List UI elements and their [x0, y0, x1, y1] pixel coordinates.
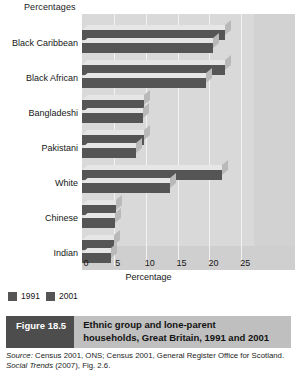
bar-front-face — [82, 148, 136, 158]
chart-plot-area — [82, 14, 295, 266]
bar-1991-white — [82, 183, 170, 193]
category-label: White — [0, 178, 78, 188]
legend-item: 2001 — [46, 291, 78, 301]
bar-front-face — [82, 113, 143, 123]
legend-swatch — [8, 292, 17, 301]
x-tick-label: 15 — [172, 258, 192, 268]
source-text-1: Census 2001, ONS; Census 2001, General R… — [33, 351, 284, 360]
chart-legend: 19912001 — [8, 291, 78, 301]
bar-front-face — [82, 183, 170, 193]
category-label: Indian — [0, 248, 78, 258]
caption-title-line2: households, Great Britain, 1991 and 2001 — [83, 332, 269, 343]
source-text-2: (2007), Fig. 2.6. — [53, 361, 110, 370]
bar-1991-pakistani — [82, 148, 136, 158]
source-prefix: Source: — [6, 351, 33, 360]
legend-item: 1991 — [8, 291, 40, 301]
units-label: Percentages — [24, 2, 76, 12]
category-label: Black Caribbean — [0, 38, 78, 48]
x-tick-label: 0 — [76, 258, 96, 268]
category-label: Pakistani — [0, 143, 78, 153]
bar-front-face — [82, 78, 206, 88]
bar-front-face — [82, 218, 115, 228]
x-tick-label: 25 — [235, 258, 255, 268]
plot-right-wall — [254, 14, 295, 266]
gridline — [241, 14, 242, 266]
bar-front-face — [82, 43, 213, 53]
x-tick-label: 5 — [108, 258, 128, 268]
source-note: Source: Census 2001, ONS; Census 2001, G… — [6, 351, 291, 371]
legend-label: 2001 — [59, 291, 78, 301]
legend-label: 1991 — [21, 291, 40, 301]
category-label: Chinese — [0, 213, 78, 223]
source-italic-title: Social Trends — [6, 361, 53, 370]
figure-caption: Figure 18.5 Ethnic group and lone-parent… — [6, 316, 291, 371]
bar-1991-black-caribbean — [82, 43, 213, 53]
x-tick-label: 20 — [203, 258, 223, 268]
figure-container: Percentages Black CaribbeanBlack African… — [0, 0, 297, 310]
bar-1991-black-african — [82, 78, 206, 88]
bar-1991-chinese — [82, 218, 115, 228]
bar-1991-bangladeshi — [82, 113, 143, 123]
x-axis-title: Percentage — [0, 272, 297, 282]
caption-title-line1: Ethnic group and lone-parent — [83, 319, 215, 330]
x-tick-label: 10 — [140, 258, 160, 268]
caption-title: Ethnic group and lone-parent households,… — [74, 316, 275, 348]
caption-bar: Figure 18.5 Ethnic group and lone-parent… — [6, 316, 291, 348]
category-label: Black African — [0, 73, 78, 83]
legend-swatch — [46, 292, 55, 301]
figure-number: Figure 18.5 — [6, 316, 74, 348]
category-label: Bangladeshi — [0, 108, 78, 118]
